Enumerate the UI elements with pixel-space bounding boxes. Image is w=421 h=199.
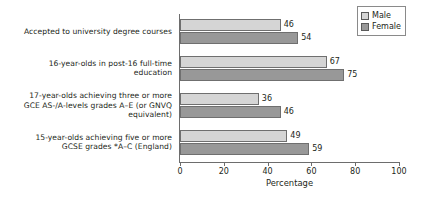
x-tick <box>355 162 356 166</box>
x-tick-label: 40 <box>263 167 273 177</box>
bar-value-label: 46 <box>284 19 294 31</box>
plot-area: 4654677536464959 020406080100 <box>180 14 399 162</box>
bar-female[interactable] <box>180 106 281 118</box>
x-axis-line <box>179 162 399 163</box>
bar-male[interactable] <box>180 130 287 142</box>
x-axis-title: Percentage <box>180 178 399 188</box>
bar-female[interactable] <box>180 32 298 44</box>
category-label: 15-year-olds achieving five or more GCSE… <box>0 133 172 152</box>
x-tick-label: 0 <box>177 167 182 177</box>
bar-chart: Accepted to university degree courses16-… <box>0 0 421 199</box>
x-tick <box>399 162 400 166</box>
bar-value-label: 59 <box>312 143 322 155</box>
category-label: Accepted to university degree courses <box>0 27 172 37</box>
x-tick <box>180 162 181 166</box>
x-tick <box>268 162 269 166</box>
category-axis-labels: Accepted to university degree courses16-… <box>0 14 176 162</box>
bar-female[interactable] <box>180 143 309 155</box>
category-label: 16-year-olds in post-16 full-time educat… <box>0 59 172 78</box>
x-tick-label: 100 <box>391 167 406 177</box>
x-tick-label: 60 <box>306 167 316 177</box>
legend-swatch-female-icon <box>361 23 369 31</box>
bar-male[interactable] <box>180 19 281 31</box>
legend-item-female[interactable]: Female <box>361 21 401 32</box>
bar-male[interactable] <box>180 93 259 105</box>
x-tick <box>224 162 225 166</box>
x-tick-label: 80 <box>350 167 360 177</box>
bar-value-label: 46 <box>284 106 294 118</box>
legend-label-male: Male <box>372 10 391 21</box>
bar-value-label: 49 <box>290 130 300 142</box>
bar-value-label: 75 <box>347 69 357 81</box>
legend-swatch-male-icon <box>361 12 369 20</box>
legend-label-female: Female <box>372 21 401 32</box>
x-tick-label: 20 <box>219 167 229 177</box>
bar-value-label: 36 <box>262 93 272 105</box>
legend: Male Female <box>357 6 406 36</box>
category-label: 17-year-olds achieving three or more GCE… <box>0 91 172 120</box>
x-tick <box>311 162 312 166</box>
bar-male[interactable] <box>180 56 327 68</box>
bar-female[interactable] <box>180 69 344 81</box>
legend-item-male[interactable]: Male <box>361 10 401 21</box>
bar-value-label: 54 <box>301 32 311 44</box>
bar-value-label: 67 <box>330 56 340 68</box>
